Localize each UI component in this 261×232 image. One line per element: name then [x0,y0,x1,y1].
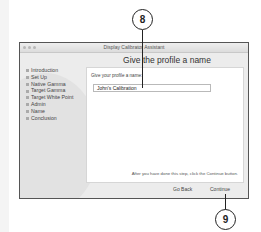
window-title: Display Calibrator Assistant [20,44,248,50]
bullet-icon [26,117,29,120]
bullet-icon [26,96,29,99]
callout-8-leader-line [142,30,143,88]
step-introduction: Introduction [26,67,73,74]
step-conclusion: Conclusion [26,115,73,122]
step-native-gamma: Native Gamma [26,81,73,88]
page-margin [0,0,9,232]
bullet-icon [26,76,29,79]
display-calibrator-window: Display Calibrator Assistant Give the pr… [19,42,249,199]
profile-name-prompt: Give your profile a name: [91,73,142,78]
step-admin: Admin [26,101,73,108]
callout-9-leader-line [225,194,226,210]
content-panel: Give your profile a name: John's Calibra… [86,67,244,183]
profile-name-input[interactable]: John's Calibration [93,84,211,92]
title-bar: Display Calibrator Assistant [20,43,248,53]
bullet-icon [26,83,29,86]
page-heading: Give the profile a name [86,55,248,65]
go-back-button[interactable]: Go Back [173,186,192,192]
continue-button[interactable]: Continue [210,186,230,192]
bullet-icon [26,90,29,93]
callout-8-badge: 8 [132,9,153,30]
continue-hint: After you have done this step, click the… [132,171,238,176]
bullet-icon [26,103,29,106]
callout-9-badge: 9 [215,209,236,230]
step-list: Introduction Set Up Native Gamma Target … [26,67,73,121]
step-name: Name [26,108,73,115]
step-target-gamma: Target Gamma [26,87,73,94]
bullet-icon [26,110,29,113]
step-target-white-point: Target White Point [26,94,73,101]
bullet-icon [26,69,29,72]
step-set-up: Set Up [26,74,73,81]
